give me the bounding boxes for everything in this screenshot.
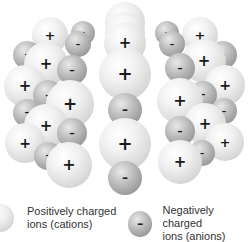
minus-sign: – <box>122 104 128 116</box>
minus-sign: – <box>177 63 183 74</box>
plus-sign: + <box>173 93 186 109</box>
minus-sign: – <box>76 40 81 49</box>
plus-sign: + <box>219 78 231 92</box>
plus-sign: + <box>19 136 31 150</box>
minus-sign: – <box>69 65 75 76</box>
plus-sign: + <box>117 65 132 83</box>
legend-cation: Positively charged ions (cations) <box>0 204 116 232</box>
minus-sign: – <box>137 218 143 230</box>
plus-sign: + <box>198 54 211 69</box>
ionic-lattice-diagram: +––+++––+––++––+++––++–––++––+++––++– <box>0 0 251 200</box>
cation-legend-icon <box>0 204 14 232</box>
plus-sign: + <box>19 79 32 94</box>
anion-legend-icon: – <box>128 211 152 237</box>
anion-ion: – <box>65 31 91 57</box>
minus-sign: – <box>69 128 75 139</box>
plus-sign: + <box>117 135 132 153</box>
plus-sign: + <box>45 29 56 42</box>
minus-sign: – <box>177 126 183 137</box>
plus-sign: + <box>220 136 231 149</box>
cation-legend-label: Positively charged ions (cations) <box>27 205 116 231</box>
anion-legend-label: Negatively charged ions (anions) <box>162 204 251 242</box>
legend-anion: – Negatively charged ions (anions) <box>128 204 251 242</box>
plus-sign: + <box>40 57 53 72</box>
minus-sign: – <box>122 172 128 184</box>
minus-sign: – <box>170 40 175 49</box>
plus-sign: + <box>62 157 75 173</box>
cation-ion: + <box>46 142 92 188</box>
cation-ion: + <box>158 140 202 184</box>
anion-ion: – <box>108 161 142 195</box>
plus-sign: + <box>63 96 77 113</box>
plus-sign: + <box>174 155 187 170</box>
